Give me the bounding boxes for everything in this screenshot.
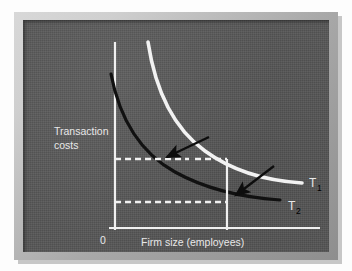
curve-t1 [148,42,302,183]
curve-label-t1: T 1 [309,176,322,193]
x-axis-label: Firm size (employees) [141,236,244,248]
shift-arrow-upper [167,137,209,157]
curve-label-t2-subscript: 2 [296,206,301,216]
y-axis-label-line2: costs [54,139,79,151]
curve-label-t2-base: T [288,199,296,213]
curve-label-t1-base: T [309,176,317,190]
figure-frame: Transaction costs 0 Firm size (employees… [14,12,338,260]
y-axis-label-line1: Transaction [54,125,109,137]
curve-label-t2: T 2 [288,199,301,216]
curve-label-t1-subscript: 1 [317,183,322,193]
plot-panel: Transaction costs 0 Firm size (employees… [23,20,329,252]
origin-label: 0 [100,234,106,246]
figure-root: Transaction costs 0 Firm size (employees… [0,0,352,271]
transaction-costs-chart: Transaction costs 0 Firm size (employees… [23,20,329,252]
